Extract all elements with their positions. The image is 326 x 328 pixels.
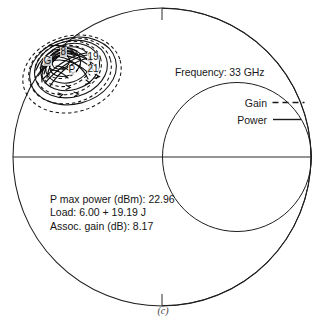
contour-label-gain-optimum: G (43, 56, 52, 66)
contour-label-power-optimum: P (68, 65, 76, 75)
solid-line-icon (272, 115, 305, 124)
smith-chart-figure: 8 G 19 21 P Frequency: 33 GHz Gain Power… (0, 0, 326, 328)
legend-label-power: Power (237, 114, 267, 126)
legend-item-power: Power (197, 111, 305, 128)
result-line-load: Load: 6.00 + 19.19 J (50, 206, 175, 219)
results-annotation-block: P max power (dBm): 22.96 Load: 6.00 + 19… (50, 193, 175, 233)
result-line-max-power: P max power (dBm): 22.96 (50, 193, 175, 206)
legend: Gain Power (197, 94, 305, 128)
legend-label-gain: Gain (245, 97, 267, 109)
contour-label-power-19: 19 (87, 52, 99, 62)
contour-label-gain-8: 8 (60, 47, 67, 57)
smith-chart-canvas (0, 0, 326, 328)
frequency-label: Frequency: 33 GHz (175, 66, 264, 78)
figure-caption: (c) (0, 305, 326, 316)
dashed-line-icon (272, 98, 305, 107)
legend-item-gain: Gain (197, 94, 305, 111)
contour-label-power-21: 21 (87, 64, 99, 74)
result-line-assoc-gain: Assoc. gain (dB): 8.17 (50, 220, 175, 233)
